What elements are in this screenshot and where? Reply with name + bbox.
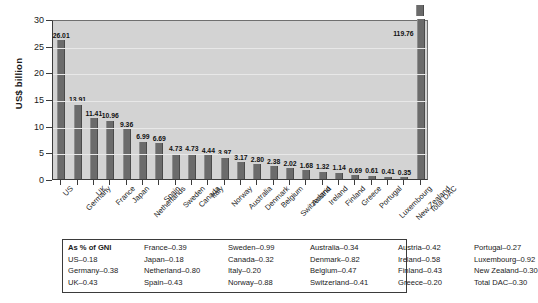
notes-table-cell: Australia–0.34 (310, 243, 396, 254)
bar-value-label: 2.80 (251, 156, 264, 163)
bar (221, 158, 229, 179)
bar (204, 155, 212, 179)
bar-value-label: 9.36 (120, 121, 133, 128)
x-tick-label: US (61, 184, 75, 198)
notes-table-cell: US–0.18 (68, 255, 142, 266)
bar-value-label: 2.38 (267, 158, 280, 165)
notes-table-cell: Spain–0.43 (144, 278, 226, 289)
bar (319, 172, 327, 179)
bar (286, 168, 294, 179)
notes-table: As % of GNIFrance–0.39Sweden–0.99Austral… (62, 239, 407, 293)
bar (335, 173, 343, 179)
bar (384, 177, 392, 179)
bar (155, 143, 163, 179)
bar-value-label: 10.96 (102, 112, 119, 119)
bar (57, 40, 65, 179)
bar-value-label: 1.32 (316, 163, 329, 170)
bar (139, 142, 147, 179)
notes-table-cell: Total DAC–0.30 (474, 278, 538, 289)
bar (302, 170, 310, 179)
bar-value-label: 4.73 (169, 145, 182, 152)
bar-value-label: 26.01 (53, 32, 70, 39)
y-tick-label: 30 (34, 15, 44, 25)
bar-value-label: 4.73 (185, 145, 198, 152)
bar-value-label: 6.69 (153, 135, 166, 142)
bar-value-label: 6.99 (136, 133, 149, 140)
bar (172, 154, 180, 179)
y-tick-label: 5 (39, 148, 44, 158)
bar-value-label: 11.41 (86, 110, 103, 117)
notes-table-cell: UK–0.43 (68, 278, 142, 289)
notes-table-cell: Belgium–0.47 (310, 266, 396, 277)
bar-overflow-cap (416, 5, 424, 16)
notes-table-cell: Finland–0.43 (398, 266, 472, 277)
notes-table-cell: Japan–0.18 (144, 255, 226, 266)
bar-value-label: 0.35 (398, 169, 411, 176)
gridline (53, 101, 427, 102)
notes-table-cell: Netherland–0.80 (144, 266, 226, 277)
notes-table-cell: Switzerland–0.41 (310, 278, 396, 289)
plot-area: 26.0113.9111.4110.969.366.996.694.734.73… (52, 20, 428, 180)
bar (237, 162, 245, 179)
gridline (53, 48, 427, 49)
y-tick-label: 20 (34, 68, 44, 78)
notes-table-header: As % of GNI (68, 243, 142, 254)
gridline (53, 128, 427, 129)
y-tick-label: 15 (34, 95, 44, 105)
bar (400, 177, 408, 179)
bar-value-label: 2.02 (283, 160, 296, 167)
y-tick-label: 0 (39, 175, 44, 185)
bar-value-label: 0.69 (349, 167, 362, 174)
notes-table-cell: Portugal–0.27 (474, 243, 538, 254)
bar (188, 154, 196, 179)
bar-value-label: 0.61 (365, 167, 378, 174)
notes-table-cell: France–0.39 (144, 243, 226, 254)
notes-table-cell: Greece–0.20 (398, 278, 472, 289)
bar (368, 176, 376, 179)
notes-table-cell: New Zealand–0.30 (474, 266, 538, 277)
x-axis-labels: USGermanyUKFranceJapanNetherlandsSpainSw… (52, 184, 428, 244)
bar (253, 164, 261, 179)
notes-table-cell: Sweden–0.99 (228, 243, 308, 254)
notes-table-cell: Germany–0.38 (68, 266, 142, 277)
gridline (53, 74, 427, 75)
y-axis: 051015202530 (0, 0, 52, 303)
gridline (53, 154, 427, 155)
bar-value-label: 119.76 (393, 30, 413, 37)
bar-value-label: 0.41 (382, 168, 395, 175)
notes-table-cell: Luxembourg–0.92 (474, 255, 538, 266)
bar-value-label: 13.91 (69, 96, 86, 103)
notes-table-cell: Ireland–0.58 (398, 255, 472, 266)
bar (74, 105, 82, 179)
notes-table-cell: Canada–0.32 (228, 255, 308, 266)
bar-value-label: 4.44 (202, 147, 215, 154)
bar-value-label: 1.68 (300, 162, 313, 169)
y-tick-label: 25 (34, 42, 44, 52)
bar-value-label: 1.14 (332, 164, 345, 171)
y-tick-label: 10 (34, 122, 44, 132)
notes-table-cell: Denmark–0.82 (310, 255, 396, 266)
bar (106, 121, 114, 179)
bar (351, 175, 359, 179)
notes-table-grid: As % of GNIFrance–0.39Sweden–0.99Austral… (68, 243, 401, 288)
bar (270, 166, 278, 179)
notes-table-cell: Italy–0.20 (228, 266, 308, 277)
notes-table-cell: Austria–0.42 (398, 243, 472, 254)
notes-table-cell: Norway–0.88 (228, 278, 308, 289)
